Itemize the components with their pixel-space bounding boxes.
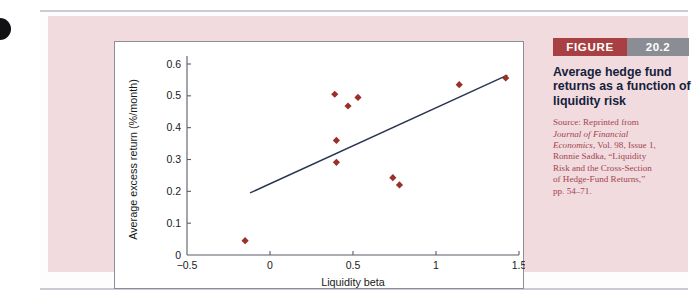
source-line: Source: Reprinted from [553,117,696,128]
x-axis-label: Liquidity beta [321,276,385,288]
source-line: Economics, Vol. 98, Issue 1, [553,140,696,151]
data-point-marker [396,181,403,188]
x-tick-label: 0.5 [346,259,361,271]
data-point-marker [333,137,340,144]
data-point-marker [242,237,249,244]
source-line: Ronnie Sadka, “Liquidity [553,151,696,162]
x-tick-label: 1 [433,259,439,271]
x-tick-label: −0.5 [177,259,198,271]
figure-source-note: Source: Reprinted fromJournal of Financi… [553,117,696,197]
figure-badge: FIGURE 20.2 [553,38,696,56]
y-axis-label: Average excess return (%/month) [127,79,139,240]
y-tick-label: 0.1 [166,217,181,229]
figure-title: Average hedge fund returns as a function… [553,65,696,108]
y-tick-label: 0.2 [166,185,181,197]
data-point-marker [331,91,338,98]
figure-panel: 00.10.20.30.40.50.6−0.500.511.5Liquidity… [48,16,688,272]
y-tick-label: 0.6 [166,58,181,70]
scatter-plot-svg: 00.10.20.30.40.50.6−0.500.511.5Liquidity… [115,42,525,290]
scatter-plot-area: 00.10.20.30.40.50.6−0.500.511.5Liquidity… [114,41,524,289]
data-point-marker [502,74,509,81]
data-point-marker [389,174,396,181]
data-point-marker [456,81,463,88]
y-tick-label: 0.4 [166,121,181,133]
trend-line [250,75,507,193]
data-point-marker [354,94,361,101]
y-tick-label: 0.5 [166,89,181,101]
y-tick-label: 0.3 [166,153,181,165]
x-tick-label: 0 [267,259,273,271]
figure-badge-label: FIGURE [553,38,627,56]
x-tick-label: 1.5 [512,259,525,271]
figure-caption-block: FIGURE 20.2 Average hedge fund returns a… [553,38,696,197]
source-line: Risk and the Cross-Section [553,163,696,174]
page-edge-tab-icon [0,18,11,40]
source-line: Journal of Financial [553,129,696,140]
data-point-marker [333,159,340,166]
source-line: pp. 54–71. [553,186,696,197]
figure-badge-number: 20.2 [627,38,689,56]
source-line: of Hedge-Fund Returns,” [553,174,696,185]
data-point-marker [344,102,351,109]
